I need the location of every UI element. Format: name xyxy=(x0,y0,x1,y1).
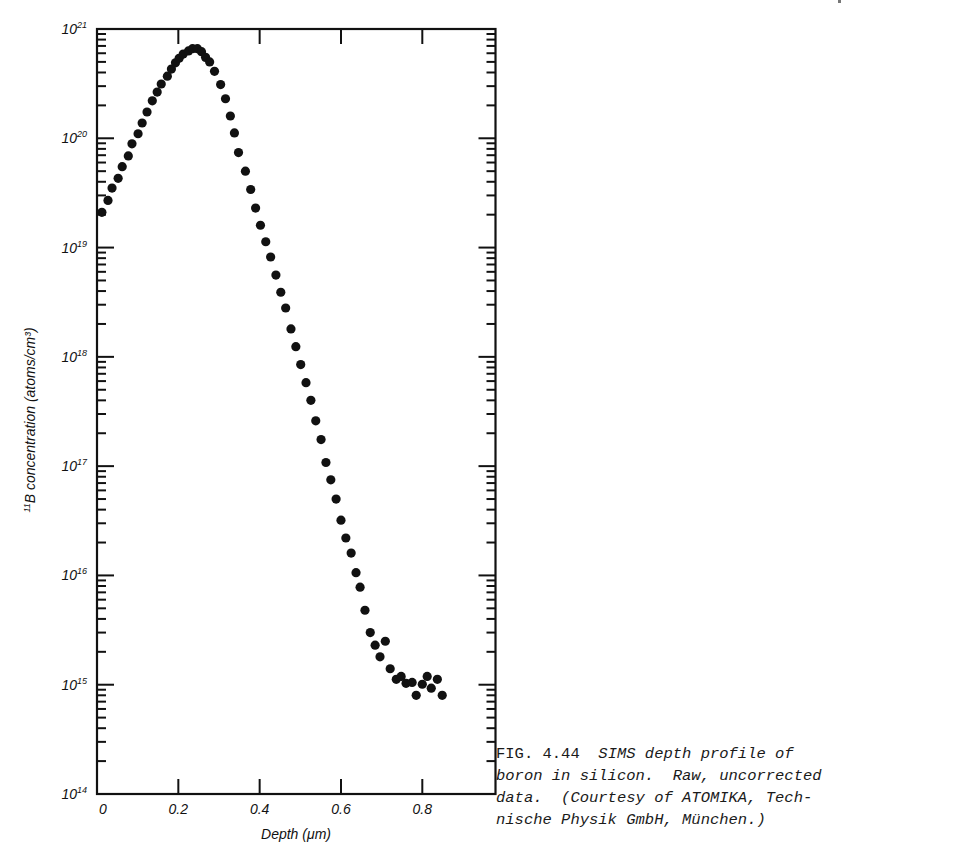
y-axis-title-isotope: 11 xyxy=(22,503,32,512)
page-speck xyxy=(838,0,841,3)
data-point xyxy=(133,129,142,138)
data-point xyxy=(371,641,380,650)
data-point xyxy=(226,111,235,120)
data-point xyxy=(118,162,127,171)
data-point xyxy=(124,151,133,160)
y-tick-label: 1016 xyxy=(61,566,87,583)
x-axis-tick-labels: 00.20.40.60.8 xyxy=(99,801,432,817)
data-points xyxy=(97,44,447,700)
y-tick-label: 1017 xyxy=(61,457,88,474)
y-axis-tick-labels: 10141015101610171018101910201021 xyxy=(61,20,88,802)
data-point xyxy=(266,252,275,261)
data-point xyxy=(246,185,255,194)
x-tick-label: 0 xyxy=(99,801,107,817)
caption-figure-number: FIG. 4.44 xyxy=(496,745,580,763)
data-point xyxy=(216,80,225,89)
data-point xyxy=(148,96,157,105)
y-axis-title-text: B concentration (atoms/cm³) xyxy=(22,327,38,503)
data-point xyxy=(418,680,427,689)
data-point xyxy=(351,568,360,577)
data-point xyxy=(355,583,364,592)
y-tick-label: 1018 xyxy=(61,348,87,365)
data-point xyxy=(234,148,243,157)
data-point xyxy=(205,57,214,66)
data-point xyxy=(157,79,166,88)
data-point xyxy=(286,324,295,333)
caption-line-4: nische Physik GmbH, München.) xyxy=(496,811,766,829)
data-point xyxy=(341,533,350,542)
data-point xyxy=(296,360,305,369)
caption-line-2: boron in silicon. Raw, uncorrected xyxy=(496,767,822,785)
x-tick-label: 0.6 xyxy=(331,801,351,817)
figure-caption: FIG. 4.44 SIMS depth profile of boron in… xyxy=(496,743,964,831)
data-point xyxy=(412,691,421,700)
data-point xyxy=(138,118,147,127)
data-point xyxy=(311,416,320,425)
data-point xyxy=(210,67,219,76)
data-point xyxy=(336,516,345,525)
x-axis-title: Depth (μm) xyxy=(261,826,331,842)
data-point xyxy=(153,87,162,96)
data-point xyxy=(276,288,285,297)
data-point xyxy=(438,691,447,700)
data-point xyxy=(423,672,432,681)
caption-line-1: SIMS depth profile of xyxy=(598,745,793,763)
data-point xyxy=(97,208,106,217)
data-point xyxy=(326,475,335,484)
data-point xyxy=(103,196,112,205)
data-point xyxy=(127,139,136,148)
data-point xyxy=(230,128,239,137)
data-point xyxy=(251,203,260,212)
sims-depth-profile-chart: 10141015101610171018101910201021 00.20.4… xyxy=(0,0,964,864)
x-tick-label: 0.8 xyxy=(413,801,433,817)
data-point xyxy=(316,435,325,444)
data-point xyxy=(386,664,395,673)
data-point xyxy=(347,549,356,558)
data-point xyxy=(375,652,384,661)
data-point xyxy=(332,494,341,503)
data-point xyxy=(271,270,280,279)
data-point xyxy=(256,221,265,230)
y-tick-label: 1014 xyxy=(61,785,87,802)
data-point xyxy=(142,107,151,116)
data-point xyxy=(261,237,270,246)
data-point xyxy=(433,675,442,684)
data-point xyxy=(366,628,375,637)
data-point xyxy=(107,184,116,193)
data-point xyxy=(221,94,230,103)
data-point xyxy=(281,303,290,312)
y-tick-label: 1021 xyxy=(61,20,87,37)
y-tick-label: 1019 xyxy=(61,239,87,256)
data-point xyxy=(381,637,390,646)
data-point xyxy=(301,378,310,387)
data-point xyxy=(360,606,369,615)
x-tick-label: 0.2 xyxy=(169,801,189,817)
data-point xyxy=(321,458,330,467)
x-axis-ticks xyxy=(178,29,422,794)
data-point xyxy=(306,396,315,405)
y-tick-label: 1015 xyxy=(61,676,88,693)
data-point xyxy=(114,174,123,183)
data-point xyxy=(408,678,417,687)
data-point xyxy=(241,167,250,176)
data-point xyxy=(291,342,300,351)
y-tick-label: 1020 xyxy=(61,129,87,146)
caption-line-3: data. (Courtesy of ATOMIKA, Tech- xyxy=(496,789,812,807)
x-tick-label: 0.4 xyxy=(250,801,270,817)
data-point xyxy=(427,684,436,693)
